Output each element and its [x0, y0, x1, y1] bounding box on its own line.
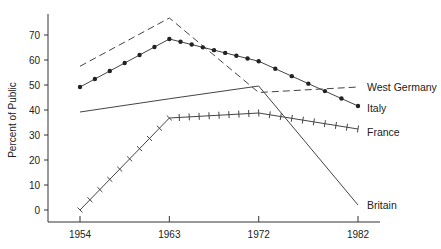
series-label-west-germany: West Germany	[367, 81, 438, 93]
series-label-britain: Britain	[367, 199, 397, 211]
marker-france	[269, 111, 270, 118]
series-label-italy: Italy	[367, 102, 387, 114]
y-tick-label: 60	[29, 55, 41, 66]
series-line-britain	[80, 86, 358, 205]
x-tick-label: 1972	[248, 229, 271, 240]
marker-italy	[306, 81, 310, 85]
marker-italy	[257, 59, 261, 63]
y-ticks: 010203040506070	[29, 30, 48, 216]
marker-italy	[178, 40, 182, 44]
marker-italy	[189, 42, 193, 46]
y-tick-label: 40	[29, 105, 41, 116]
y-tick-label: 20	[29, 155, 41, 166]
marker-france	[335, 122, 336, 129]
marker-italy	[78, 85, 82, 89]
series-group	[77, 18, 360, 212]
x-tick-label: 1954	[69, 229, 92, 240]
marker-france	[302, 117, 303, 124]
series-line-france	[80, 113, 358, 210]
marker-italy	[339, 96, 343, 100]
marker-france	[280, 113, 281, 120]
marker-italy	[245, 56, 249, 60]
marker-italy	[290, 74, 294, 78]
y-tick-label: 30	[29, 130, 41, 141]
series-line-italy	[80, 39, 358, 106]
series-label-france: France	[367, 126, 400, 138]
marker-france	[291, 115, 292, 122]
y-tick-label: 10	[29, 180, 41, 191]
marker-italy	[93, 77, 97, 81]
marker-france	[346, 124, 347, 131]
line-chart: Percent of Public 010203040506070 195419…	[0, 0, 441, 249]
series-labels: West GermanyItalyFranceBritain	[367, 81, 438, 211]
y-axis-title: Percent of Public	[7, 82, 18, 158]
marker-italy	[152, 45, 156, 49]
marker-italy	[273, 67, 277, 71]
marker-italy	[108, 69, 112, 73]
x-ticks: 1954196319721982	[69, 216, 370, 240]
marker-france	[357, 126, 358, 133]
y-tick-label: 50	[29, 80, 41, 91]
marker-italy	[356, 104, 360, 108]
marker-france	[313, 118, 314, 125]
series-line-west-germany	[80, 18, 358, 93]
marker-italy	[323, 89, 327, 93]
marker-italy	[167, 37, 171, 41]
marker-italy	[212, 48, 216, 52]
x-tick-label: 1982	[347, 229, 370, 240]
marker-france	[324, 120, 325, 127]
x-tick-label: 1963	[158, 229, 181, 240]
marker-italy	[201, 45, 205, 49]
y-tick-label: 70	[29, 30, 41, 41]
y-tick-label: 0	[34, 205, 40, 216]
marker-italy	[122, 61, 126, 65]
marker-italy	[223, 51, 227, 55]
marker-italy	[234, 53, 238, 57]
marker-italy	[137, 53, 141, 57]
